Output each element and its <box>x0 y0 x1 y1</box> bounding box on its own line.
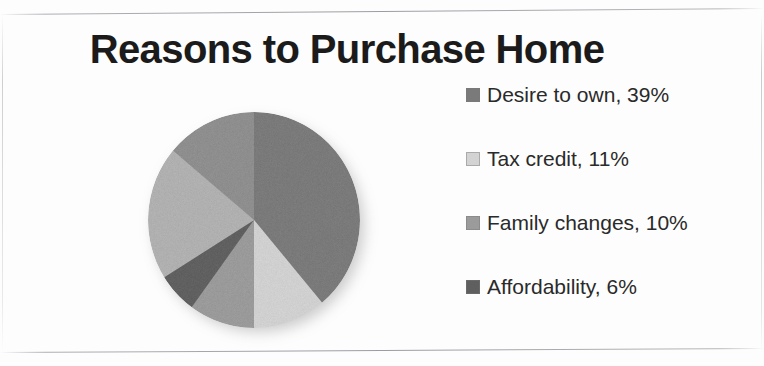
page-border-bottom <box>0 348 764 353</box>
chart-legend: Desire to own, 39% Tax credit, 11% Famil… <box>466 82 746 338</box>
legend-item[interactable]: Family changes, 10% <box>466 210 746 274</box>
page-border-top <box>0 8 764 15</box>
legend-item[interactable]: Affordability, 6% <box>466 274 746 338</box>
legend-item[interactable]: Desire to own, 39% <box>466 82 746 146</box>
pie-canvas <box>148 112 360 328</box>
pie-slices <box>148 112 360 328</box>
legend-item-label: Family changes, 10% <box>487 210 688 236</box>
legend-swatch-icon <box>466 280 480 294</box>
chart-title: Reasons to Purchase Home <box>0 28 764 70</box>
legend-swatch-icon <box>466 88 480 102</box>
legend-item-label: Tax credit, 11% <box>487 146 629 172</box>
legend-item-label: Desire to own, 39% <box>487 82 669 108</box>
legend-swatch-icon <box>466 152 480 166</box>
pie-chart <box>140 104 372 342</box>
legend-item-label: Affordability, 6% <box>487 274 637 300</box>
legend-swatch-icon <box>466 216 480 230</box>
legend-item[interactable]: Tax credit, 11% <box>466 146 746 210</box>
